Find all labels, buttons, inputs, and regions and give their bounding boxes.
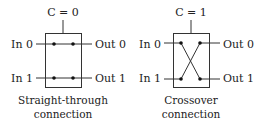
- node-dot: [71, 76, 75, 80]
- node-dot: [71, 42, 75, 46]
- node-dot: [52, 76, 56, 80]
- switch-diagram: C = 0 In 0 In 1 Out 0 Out 1 Straight-thr…: [0, 0, 257, 128]
- straight-through-switch: C = 0 In 0 In 1 Out 0 Out 1 Straight-thr…: [11, 6, 126, 120]
- input-0-label: In 0: [139, 38, 161, 51]
- node-dot: [179, 77, 183, 81]
- output-0-label: Out 0: [95, 38, 126, 51]
- caption-line-2: connection: [162, 108, 221, 120]
- crossover-switch: C = 1 In 0 In 1 Out 0 Out 1 Crossover co…: [139, 6, 254, 120]
- output-1-label: Out 1: [95, 72, 126, 85]
- output-0-label: Out 0: [223, 38, 254, 51]
- node-dot: [52, 42, 56, 46]
- input-1-label: In 1: [11, 72, 33, 85]
- input-1-label: In 1: [139, 72, 161, 85]
- output-1-label: Out 1: [223, 72, 254, 85]
- control-label: C = 1: [175, 6, 207, 19]
- caption-line-1: Straight-through: [18, 94, 108, 106]
- node-dot: [179, 41, 183, 45]
- node-dot: [198, 77, 202, 81]
- control-label: C = 0: [47, 6, 79, 19]
- caption-line-1: Crossover: [164, 94, 219, 106]
- node-dot: [198, 41, 202, 45]
- input-0-label: In 0: [11, 38, 33, 51]
- caption-line-2: connection: [34, 108, 93, 120]
- switch-box: [46, 34, 82, 88]
